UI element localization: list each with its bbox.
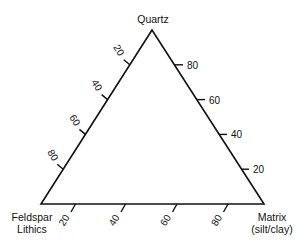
vertex-label-matrix-line1: Matrix [243,211,300,223]
svg-text:40: 40 [106,212,121,228]
ternary-diagram: 20 40 60 80 80 60 40 20 20 40 60 80 [0,0,300,246]
svg-text:60: 60 [209,95,221,106]
vertex-label-matrix: Matrix (silt/clay) [243,211,300,235]
left-axis-ticks [57,60,130,169]
svg-text:40: 40 [231,129,243,140]
svg-text:80: 80 [209,212,224,228]
vertex-label-lithics: Lithics [8,223,56,235]
svg-text:80: 80 [187,60,199,71]
svg-text:20: 20 [253,164,265,175]
svg-text:60: 60 [67,113,82,129]
vertex-label-matrix-line2: (silt/clay) [243,223,300,235]
bottom-axis-labels: 20 40 60 80 [56,212,224,228]
svg-text:40: 40 [89,78,104,94]
right-axis-ticks [174,65,249,169]
svg-text:60: 60 [158,212,173,228]
bottom-axis-ticks [71,204,228,212]
svg-text:20: 20 [56,212,71,228]
vertex-label-quartz: Quartz [131,13,175,25]
svg-text:80: 80 [45,148,60,164]
svg-text:20: 20 [111,43,126,59]
left-axis-labels: 20 40 60 80 [45,43,126,164]
right-axis-labels: 80 60 40 20 [187,60,265,176]
vertex-label-feldspar-lithics: Feldspar Lithics [8,211,56,235]
vertex-label-feldspar: Feldspar [8,211,56,223]
